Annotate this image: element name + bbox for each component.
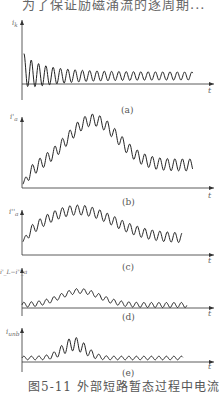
ylabel-d: i'_L−i''_a [0,268,27,275]
xlabel-d: t [208,309,211,318]
xlabel-e: t [208,362,211,371]
xlabel-b: t [208,191,211,200]
waveform-figure [0,0,223,394]
ylabel-b: i'a [10,113,18,122]
ylabel-c: i''a [9,208,19,217]
panel-label-b: (b) [122,197,135,207]
xlabel-a: t [208,86,211,95]
panel-label-d: (d) [122,312,135,322]
panel-label-a: (a) [121,105,133,115]
ylabel-e: iunb [6,328,20,337]
xlabel-c: t [208,256,211,265]
figure-caption: 图5-11 外部短路暂态过程中电流 [28,377,220,394]
ylabel-a: ik [12,19,18,28]
panel-label-c: (c) [122,262,134,272]
